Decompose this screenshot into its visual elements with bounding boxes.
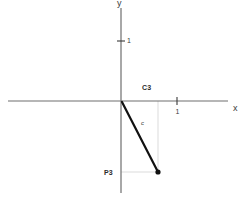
- y-tick-label-1: 1: [127, 37, 131, 44]
- vector-group: [122, 102, 161, 175]
- y-axis-label: y: [117, 0, 122, 8]
- label-vector-c: c: [141, 120, 144, 126]
- label-c3: C3: [142, 84, 151, 91]
- x-axis-label: x: [233, 104, 238, 113]
- label-p3: P3: [104, 169, 113, 176]
- plot-canvas: [0, 0, 246, 200]
- vector-c-segment: [122, 102, 158, 172]
- point-p3-marker: [155, 169, 160, 174]
- coordinate-plot-figure: y x 1 1 C3 P3 c: [0, 0, 246, 200]
- x-tick-label-1: 1: [176, 108, 180, 115]
- axes-group: [8, 8, 228, 193]
